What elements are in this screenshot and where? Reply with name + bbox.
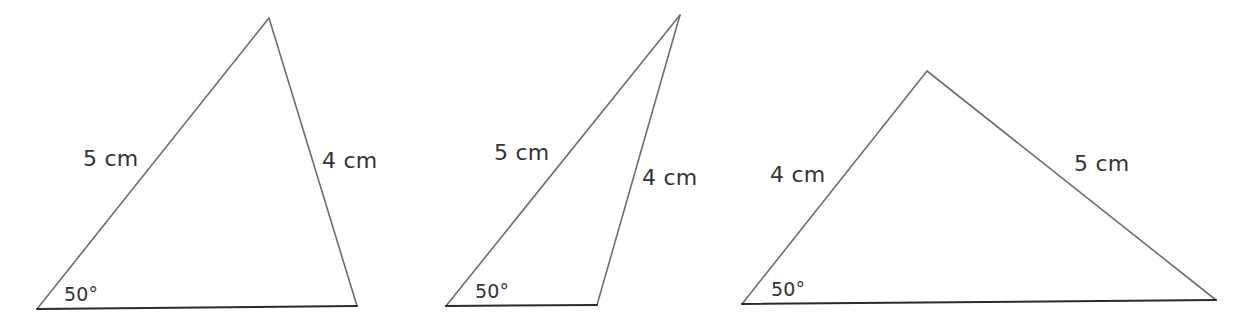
triangle-2-right-side [597,15,680,305]
triangle-2-right-side-label: 4 cm [642,167,697,189]
triangle-1-right-side-label: 4 cm [322,150,377,172]
triangle-2-angle-label: 50° [475,282,509,301]
triangle-2-left-side [446,15,680,306]
triangle-2-base [446,305,597,306]
triangle-3-angle-label: 50° [771,280,805,299]
triangle-3-base [742,300,1216,304]
triangle-3-right-side-label: 5 cm [1074,153,1129,175]
triangle-1-angle-label: 50° [64,285,98,304]
triangle-3-right-side [927,71,1216,300]
triangle-3 [742,71,1216,304]
triangle-3-left-side-label: 4 cm [770,164,825,186]
triangle-1-base [37,306,357,309]
triangle-1-left-side-label: 5 cm [83,148,138,170]
triangle-1-left-side [37,18,269,309]
triangles-diagram [0,0,1243,330]
triangle-3-left-side [742,71,927,304]
triangle-2-left-side-label: 5 cm [494,142,549,164]
triangle-2 [446,15,680,306]
